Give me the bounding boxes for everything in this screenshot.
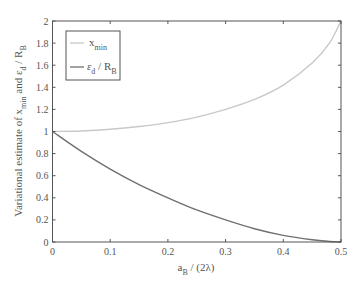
y-tick-label: 1.2	[36, 104, 49, 115]
x-tick-label: 0.3	[219, 246, 232, 257]
y-tick-label: 0.8	[36, 148, 49, 159]
y-axis-label: Variational estimate of xmin and εd / RB	[12, 45, 28, 217]
y-tick-label: 1.6	[36, 60, 49, 71]
chart: 00.10.20.30.40.500.20.40.60.811.21.41.61…	[0, 0, 360, 287]
y-tick-label: 0.6	[36, 170, 49, 181]
x-tick-label: 0.1	[104, 246, 117, 257]
legend: xmin εd / RB	[66, 31, 120, 80]
series-line-epsd	[53, 132, 342, 243]
y-tick-label: 1.8	[36, 38, 49, 49]
x-tick-label: 0.4	[277, 246, 290, 257]
y-tick-label: 0.2	[36, 214, 49, 225]
x-axis-label: aB / (2λ)	[178, 261, 215, 277]
x-tick-label: 0	[50, 246, 55, 257]
y-tick-label: 0.4	[36, 192, 49, 203]
x-tick-label: 0.2	[162, 246, 175, 257]
y-tick-label: 1.4	[36, 82, 49, 93]
y-tick-label: 1	[44, 126, 49, 137]
x-tick-label: 0.5	[335, 246, 348, 257]
y-tick-label: 0	[44, 237, 49, 248]
y-tick-label: 2	[44, 16, 49, 27]
